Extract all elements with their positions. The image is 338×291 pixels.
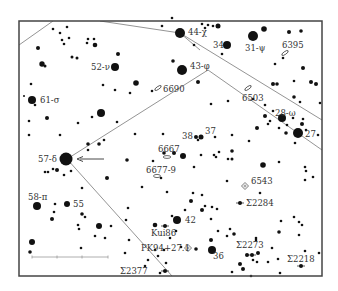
star <box>184 209 187 212</box>
star <box>97 142 101 146</box>
star <box>55 168 59 172</box>
star <box>213 154 216 157</box>
star <box>102 84 105 87</box>
star <box>87 149 90 152</box>
star <box>216 24 221 29</box>
star <box>211 206 214 209</box>
star <box>267 261 270 264</box>
star <box>125 219 128 222</box>
star <box>152 160 155 163</box>
star <box>192 192 195 195</box>
star <box>207 24 210 27</box>
star <box>256 261 259 264</box>
star <box>210 103 213 106</box>
star <box>28 120 31 123</box>
star <box>59 32 62 35</box>
star <box>299 101 302 104</box>
dso-label: 6690 <box>163 84 185 94</box>
star <box>34 104 37 107</box>
star-label: Kui86 <box>151 228 176 238</box>
star <box>304 250 307 253</box>
star <box>162 133 165 136</box>
star <box>271 82 275 86</box>
star-label: 43-φ <box>190 61 210 71</box>
star-icon <box>60 153 73 166</box>
star <box>293 80 296 83</box>
star-27: 27 <box>293 128 316 139</box>
star <box>305 170 308 173</box>
star <box>300 122 304 126</box>
star-label: 42 <box>185 215 196 225</box>
star-chart: 63956690650366676677-96543PK94+27.1 44-χ… <box>0 0 338 291</box>
star <box>275 82 279 86</box>
star <box>227 100 230 103</box>
star <box>159 272 162 275</box>
star <box>231 158 234 161</box>
star <box>66 26 69 29</box>
star <box>189 199 193 203</box>
star <box>287 30 291 34</box>
star <box>278 127 281 130</box>
star-42: 42 <box>173 215 196 225</box>
star <box>274 63 277 66</box>
star <box>248 140 251 143</box>
star-icon <box>64 201 70 207</box>
star-label: Σ2218 <box>287 254 315 264</box>
star-label: 55 <box>73 199 84 209</box>
star <box>114 89 117 92</box>
star <box>255 126 259 130</box>
star <box>23 95 25 97</box>
star <box>147 259 150 262</box>
star <box>59 134 62 137</box>
dso-label: PK94+27.1 <box>141 243 190 253</box>
star <box>277 258 280 261</box>
star <box>317 134 320 137</box>
star <box>216 208 219 211</box>
star <box>312 176 315 179</box>
star <box>194 247 198 251</box>
star <box>28 134 31 137</box>
star-label: 27 <box>305 129 316 139</box>
star <box>201 23 204 26</box>
star <box>264 104 267 107</box>
star-icon <box>194 135 198 139</box>
star <box>104 237 107 240</box>
star <box>230 149 234 153</box>
star <box>278 161 281 164</box>
star <box>63 174 66 177</box>
star <box>151 90 154 93</box>
star <box>231 134 234 137</box>
star <box>29 239 35 245</box>
star <box>129 92 132 95</box>
star <box>232 232 236 236</box>
star <box>124 252 127 255</box>
star <box>271 247 274 250</box>
star <box>221 53 224 56</box>
star <box>280 220 283 223</box>
star <box>304 179 307 182</box>
star <box>133 80 139 86</box>
star-icon <box>199 135 204 140</box>
star <box>252 259 255 262</box>
star <box>304 166 307 169</box>
star <box>44 65 47 68</box>
star <box>241 267 245 271</box>
star <box>84 216 87 219</box>
star-icon <box>177 65 187 75</box>
star <box>279 272 282 275</box>
star <box>298 234 301 237</box>
star-label: 34 <box>213 40 224 50</box>
star <box>47 171 50 174</box>
star <box>86 142 90 146</box>
star <box>63 43 66 46</box>
star-61-σ: 61-σ <box>28 95 60 105</box>
star <box>284 131 288 135</box>
star <box>293 216 296 219</box>
star <box>282 57 285 60</box>
star <box>286 124 289 127</box>
star-57-δ: 57-δ <box>38 153 73 166</box>
star <box>171 59 175 63</box>
star <box>44 171 47 174</box>
star-label: 38 <box>182 131 193 141</box>
star <box>53 211 56 214</box>
